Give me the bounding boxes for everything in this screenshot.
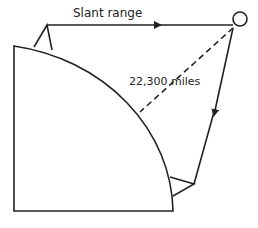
bottom-antenna-triangle (170, 177, 194, 196)
distance-dashed-line (140, 28, 233, 112)
diagram-svg (0, 0, 258, 228)
slant-range-label: Slant range (73, 6, 142, 20)
downlink-arrow (214, 28, 233, 115)
distance-label: 22,300 miles (129, 75, 200, 88)
earth-segment (14, 46, 173, 211)
diagram-canvas: Slant range 22,300 miles (0, 0, 258, 228)
top-antenna-triangle (34, 25, 52, 50)
satellite-icon (233, 12, 247, 26)
